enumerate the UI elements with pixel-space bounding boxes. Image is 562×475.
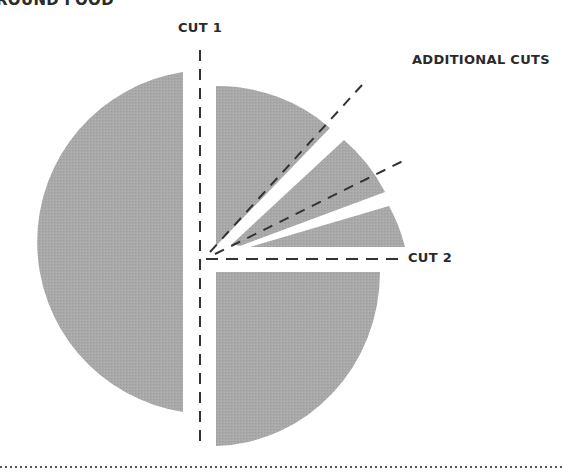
pie-cut-diagram (0, 0, 562, 475)
bottom-right-quarter-piece (216, 272, 380, 446)
left-half-piece (37, 72, 183, 412)
